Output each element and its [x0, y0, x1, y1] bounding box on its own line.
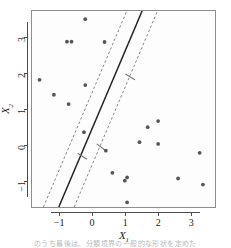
data-point — [83, 83, 87, 87]
y-axis-title: X2 — [0, 104, 15, 114]
y-axis-title-subscript: 2 — [7, 104, 15, 108]
x-tick-label: 1 — [123, 217, 128, 228]
data-point — [176, 177, 180, 181]
y-tick-label: 2 — [16, 73, 27, 78]
data-point — [70, 40, 74, 44]
x-tick-mark — [191, 212, 192, 216]
margin-line-1 — [43, 11, 126, 207]
y-tick-label: 1 — [16, 109, 27, 114]
data-point — [201, 183, 205, 187]
data-point — [82, 130, 86, 134]
data-point — [156, 119, 160, 123]
data-point — [146, 125, 150, 129]
data-point — [67, 102, 71, 106]
x-tick-mark — [92, 212, 93, 216]
x-tick-mark — [158, 212, 159, 216]
x-tick-mark — [125, 212, 126, 216]
data-point — [103, 40, 107, 44]
y-tick-label: 0 — [16, 145, 27, 150]
data-point — [38, 78, 42, 82]
data-point — [198, 151, 202, 155]
x-tick-mark — [59, 212, 60, 216]
y-tick-label: −1 — [16, 181, 27, 192]
x-tick-label: 2 — [156, 217, 161, 228]
data-point — [83, 17, 87, 21]
y-tick-label: 3 — [16, 37, 27, 42]
data-point — [156, 142, 160, 146]
y-axis-title-text: X — [0, 107, 11, 114]
plot-canvas — [32, 11, 215, 207]
caption-sliver: のうち最後は、分類境界の一般的な形状を定めた — [0, 240, 231, 248]
data-point — [65, 40, 69, 44]
data-point — [104, 149, 108, 153]
data-point — [125, 176, 129, 180]
data-point — [52, 93, 56, 97]
data-point — [138, 140, 142, 144]
data-point — [111, 171, 115, 175]
scatter-plot-figure: −10123 −10123 X1 X2 のうち最後は、分類境界の一般的な形状を定… — [0, 0, 231, 248]
margin-line-0 — [74, 11, 157, 207]
x-tick-label: −1 — [54, 217, 65, 228]
x-tick-label: 3 — [189, 217, 194, 228]
x-tick-label: 0 — [90, 217, 95, 228]
plot-panel — [31, 10, 216, 208]
data-point — [125, 200, 129, 204]
data-point — [123, 179, 127, 183]
